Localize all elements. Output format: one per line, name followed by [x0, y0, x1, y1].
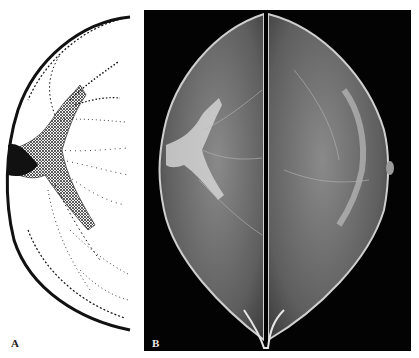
duct-drawing-illustration [0, 0, 144, 358]
panel-label-b: B [152, 337, 159, 349]
panel-label-a: A [11, 337, 19, 349]
panel-a-duct-drawing: A [0, 0, 144, 358]
panel-b-mammograms: B [144, 10, 411, 351]
mammogram-pair-image [144, 10, 411, 351]
